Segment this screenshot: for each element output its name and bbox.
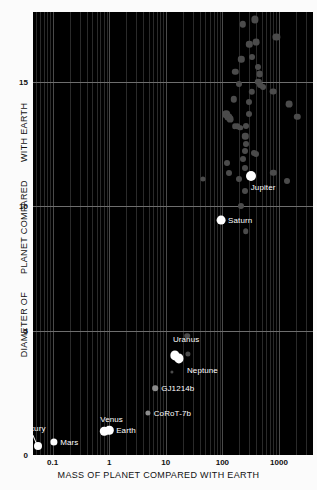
data-point-exoplanet — [242, 165, 248, 171]
data-point-exoplanet — [243, 123, 249, 129]
vertical-gridline — [217, 12, 218, 455]
data-point-exoplanet — [242, 148, 248, 154]
data-point-exoplanet — [255, 64, 261, 70]
vertical-gridline — [80, 12, 81, 455]
data-point-exoplanet — [236, 176, 242, 182]
y-axis-title-part-0: DIAMETER OF — [19, 292, 29, 357]
y-axis-title: DIAMETER OFPLANET COMPAREDWITH EARTH — [19, 10, 29, 450]
data-point-exoplanet — [186, 352, 191, 357]
data-point-exoplanet — [248, 88, 254, 94]
x-axis-title: MASS OF PLANET COMPARED WITH EARTH — [0, 470, 317, 480]
data-point-exoplanet — [253, 151, 259, 157]
data-point-exoplanet — [285, 101, 292, 108]
point-label-mars: Mars — [60, 437, 78, 446]
vertical-gridline — [87, 12, 88, 455]
vertical-gridline — [205, 12, 206, 455]
vertical-gridline — [126, 12, 127, 455]
data-point-exoplanet — [242, 188, 248, 194]
y-tick-label: 0 — [8, 451, 28, 460]
point-label-gj1214b: GJ1214b — [161, 384, 194, 393]
vertical-gridline — [100, 12, 101, 455]
vertical-gridline — [266, 12, 267, 455]
vertical-gridline — [70, 12, 71, 455]
data-point-exoplanet — [231, 96, 237, 102]
vertical-gridline — [104, 12, 105, 455]
point-label-earth: Earth — [116, 426, 136, 435]
vertical-gridline — [149, 12, 150, 455]
point-label-mercury: Mercury — [33, 423, 46, 432]
vertical-gridline — [107, 12, 108, 455]
data-point-mercury — [34, 442, 42, 450]
data-point-exoplanet — [226, 116, 233, 123]
horizontal-gridline — [33, 82, 313, 83]
data-point-jupiter — [246, 171, 256, 181]
data-point-exoplanet — [240, 21, 246, 27]
x-tick-label: 1000 — [270, 458, 288, 467]
data-point-exoplanet — [246, 111, 252, 117]
vertical-gridline — [40, 12, 41, 455]
x-tick-label: 10 — [161, 458, 170, 467]
data-point-exoplanet — [240, 156, 246, 162]
data-point-exoplanet — [238, 56, 244, 62]
data-point-exoplanet — [252, 16, 259, 23]
vertical-gridline — [109, 12, 110, 455]
vertical-gridline — [249, 12, 250, 455]
vertical-gridline — [210, 12, 211, 455]
vertical-gridline — [53, 12, 54, 455]
data-point-exoplanet — [242, 133, 248, 139]
x-tick-label: 0.1 — [47, 458, 58, 467]
data-point-exoplanet — [256, 71, 263, 78]
data-point-exoplanet — [243, 228, 249, 234]
vertical-gridline — [44, 12, 45, 455]
vertical-gridline — [306, 12, 307, 455]
point-label-corot-7b: CoRoT-7b — [154, 409, 191, 418]
data-point-saturn — [217, 215, 226, 224]
data-point-earth — [105, 426, 113, 434]
vertical-gridline — [136, 12, 137, 455]
vertical-gridline — [97, 12, 98, 455]
vertical-gridline — [36, 12, 37, 455]
point-label-venus: Venus — [100, 415, 123, 424]
vertical-gridline — [143, 12, 144, 455]
vertical-gridline — [296, 12, 297, 455]
point-label-neptune: Neptune — [187, 366, 218, 375]
x-tick-label: 100 — [216, 458, 229, 467]
data-point-exoplanet — [226, 170, 232, 176]
vertical-gridline — [47, 12, 48, 455]
vertical-gridline — [50, 12, 51, 455]
data-point-gj1214b — [152, 386, 158, 392]
vertical-gridline — [220, 12, 221, 455]
chart-figure: MercuryMarsVenusEarthCoRoT-7bGJ1214bUran… — [0, 0, 317, 490]
data-point-exoplanet — [171, 370, 174, 373]
data-point-exoplanet — [249, 54, 255, 60]
x-tick-label: 1 — [107, 458, 111, 467]
vertical-gridline — [273, 12, 274, 455]
data-point-exoplanet — [224, 160, 230, 166]
vertical-gridline — [270, 12, 271, 455]
vertical-gridline — [92, 12, 93, 455]
data-point-exoplanet — [246, 41, 252, 47]
data-point-exoplanet — [253, 38, 260, 45]
y-axis-title-part-2: WITH EARTH — [19, 103, 29, 162]
data-point-exoplanet — [260, 84, 266, 90]
point-label-saturn: Saturn — [228, 215, 252, 224]
point-label-jupiter: Jupiter — [251, 183, 276, 192]
plot-area: MercuryMarsVenusEarthCoRoT-7bGJ1214bUran… — [33, 12, 313, 455]
data-point-exoplanet — [246, 99, 252, 105]
vertical-gridline — [214, 12, 215, 455]
vertical-gridline — [279, 12, 280, 455]
data-point-exoplanet — [284, 178, 290, 184]
vertical-gridline — [200, 12, 201, 455]
data-point-exoplanet — [236, 81, 242, 87]
data-point-exoplanet — [232, 69, 238, 75]
data-point-exoplanet — [243, 141, 249, 147]
vertical-gridline — [276, 12, 277, 455]
y-axis-title-part-1: PLANET COMPARED — [19, 180, 29, 274]
horizontal-gridline — [33, 331, 313, 332]
vertical-gridline — [222, 12, 223, 455]
point-label-uranus: Uranus — [173, 335, 199, 344]
horizontal-gridline — [33, 206, 313, 207]
data-point-exoplanet — [294, 113, 300, 119]
data-point-exoplanet — [270, 88, 277, 95]
vertical-gridline — [239, 12, 240, 455]
